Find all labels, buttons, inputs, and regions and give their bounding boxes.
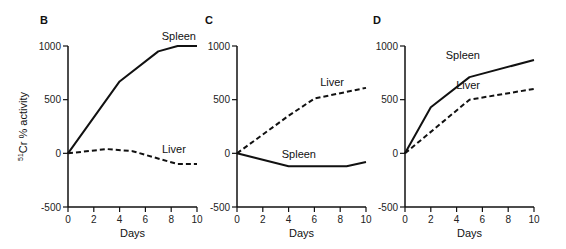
x-tick-label: 8 [337, 214, 343, 225]
y-axis-title: 51Cr % activity [17, 92, 29, 161]
x-tick-label: 6 [143, 214, 149, 225]
y-tick-label: 1000 [376, 41, 399, 52]
series-label: Spleen [282, 148, 316, 160]
chart-svg: B-500050010000246810Days51Cr % activityS… [0, 0, 566, 249]
y-tick-label: -500 [210, 202, 230, 213]
y-tick-label: 0 [224, 148, 230, 159]
x-axis-title: Days [457, 227, 483, 239]
y-tick-label: 500 [213, 94, 230, 105]
x-tick-label: 0 [402, 214, 408, 225]
y-tick-label: -500 [378, 202, 398, 213]
x-axis-title: Days [289, 227, 315, 239]
y-tick-label: 1000 [39, 41, 62, 52]
x-tick-label: 10 [528, 214, 540, 225]
series-line-liver [405, 89, 534, 153]
x-tick-label: 2 [428, 214, 434, 225]
panel-label: C [205, 14, 213, 26]
series-line-spleen [405, 60, 534, 153]
y-tick-label: 500 [44, 94, 61, 105]
y-tick-label: 500 [381, 94, 398, 105]
y-tick-label: 1000 [208, 41, 231, 52]
series-label: Liver [162, 143, 186, 155]
x-tick-label: 4 [286, 214, 292, 225]
x-tick-label: 10 [191, 214, 203, 225]
panel-label: B [40, 14, 48, 26]
y-tick-label: 0 [55, 148, 61, 159]
series-label: Spleen [446, 49, 480, 61]
series-label: Liver [456, 79, 480, 91]
chart-figure: B-500050010000246810Days51Cr % activityS… [0, 0, 566, 249]
x-tick-label: 6 [480, 214, 486, 225]
y-tick-label: 0 [392, 148, 398, 159]
x-tick-label: 0 [234, 214, 240, 225]
series-line-spleen [68, 46, 197, 153]
x-tick-label: 10 [360, 214, 372, 225]
x-tick-label: 8 [505, 214, 511, 225]
x-tick-label: 2 [260, 214, 266, 225]
y-tick-label: -500 [41, 202, 61, 213]
series-label: Spleen [162, 30, 196, 42]
x-tick-label: 4 [454, 214, 460, 225]
x-axis-title: Days [120, 227, 146, 239]
x-tick-label: 6 [312, 214, 318, 225]
x-tick-label: 0 [65, 214, 71, 225]
panel-label: D [373, 14, 381, 26]
series-line-liver [237, 88, 366, 153]
x-tick-label: 8 [168, 214, 174, 225]
x-tick-label: 2 [91, 214, 97, 225]
series-label: Liver [320, 76, 344, 88]
x-tick-label: 4 [117, 214, 123, 225]
